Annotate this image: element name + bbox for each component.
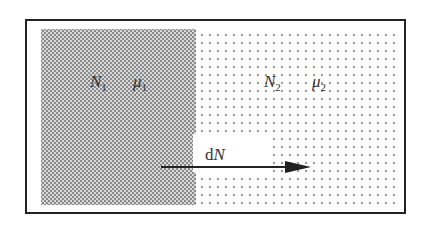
flow-arrow-icon <box>161 160 311 174</box>
system-box: N1 μ1 N2 μ2 dN <box>25 19 406 214</box>
mu2-label: μ2 <box>312 72 326 93</box>
n2-label: N2 <box>264 72 281 93</box>
mu1-label: μ1 <box>133 72 147 93</box>
subsystem-1-region <box>41 29 196 205</box>
n1-label: N1 <box>90 72 107 93</box>
subsystem-2-region <box>196 29 396 205</box>
